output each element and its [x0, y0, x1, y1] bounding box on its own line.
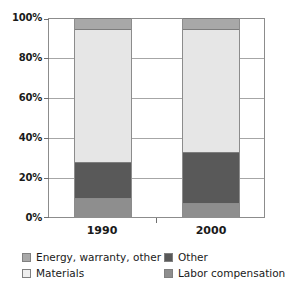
x-tick-mark-mid [156, 218, 157, 223]
x-tick-label-2000: 2000 [157, 224, 265, 237]
y-tick-label-20: 20% [0, 173, 42, 183]
bar-segment-1990-materials[interactable] [75, 29, 131, 162]
stacked-bar-chart: 100% 80% 60% 40% 20% 0% 1990 [0, 0, 291, 295]
bars-layer [48, 18, 265, 218]
legend-swatch-energy-icon [22, 253, 31, 262]
legend-label-labor: Labor compensation [178, 267, 285, 279]
legend-label-other: Other [178, 251, 208, 263]
y-tick-label-80: 80% [0, 53, 42, 63]
bar-1990[interactable] [74, 18, 132, 218]
y-axis-labels: 100% 80% 60% 40% 20% 0% [0, 18, 42, 218]
legend-item-other[interactable]: Other [164, 251, 208, 263]
legend-swatch-labor-icon [164, 269, 173, 278]
bar-segment-2000-labor-compensation[interactable] [183, 203, 239, 218]
bar-segment-1990-other[interactable] [75, 162, 131, 198]
y-tick-label-40: 40% [0, 133, 42, 143]
bar-segment-1990-energy-warranty-other[interactable] [75, 18, 131, 29]
plot-area: 100% 80% 60% 40% 20% 0% 1990 [0, 0, 291, 245]
bar-segment-2000-materials[interactable] [183, 29, 239, 152]
legend-swatch-other-icon [164, 253, 173, 262]
chart-legend: Energy, warranty, other Other Materials … [22, 251, 291, 295]
x-tick-label-1990: 1990 [48, 224, 156, 237]
bar-2000[interactable] [182, 18, 240, 218]
legend-label-energy: Energy, warranty, other [36, 251, 161, 263]
y-tick-label-100: 100% [0, 13, 42, 23]
legend-swatch-materials-icon [22, 269, 31, 278]
bar-segment-1990-labor-compensation[interactable] [75, 198, 131, 218]
bar-segment-2000-other[interactable] [183, 152, 239, 203]
legend-item-labor[interactable]: Labor compensation [164, 267, 285, 279]
y-tick-label-60: 60% [0, 93, 42, 103]
legend-label-materials: Materials [36, 267, 84, 279]
legend-item-materials[interactable]: Materials [22, 267, 84, 279]
legend-item-energy[interactable]: Energy, warranty, other [22, 251, 161, 263]
bar-segment-2000-energy-warranty-other[interactable] [183, 18, 239, 29]
y-tick-label-0: 0% [0, 213, 42, 223]
